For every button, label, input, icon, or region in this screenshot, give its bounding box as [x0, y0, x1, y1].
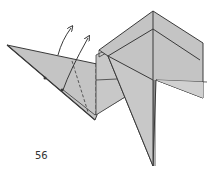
reference-dot: [44, 77, 47, 80]
reference-dot: [61, 89, 64, 92]
origami-diagram: [0, 0, 212, 173]
step-number: 56: [35, 150, 48, 161]
fold-arrow-1: [58, 28, 71, 55]
